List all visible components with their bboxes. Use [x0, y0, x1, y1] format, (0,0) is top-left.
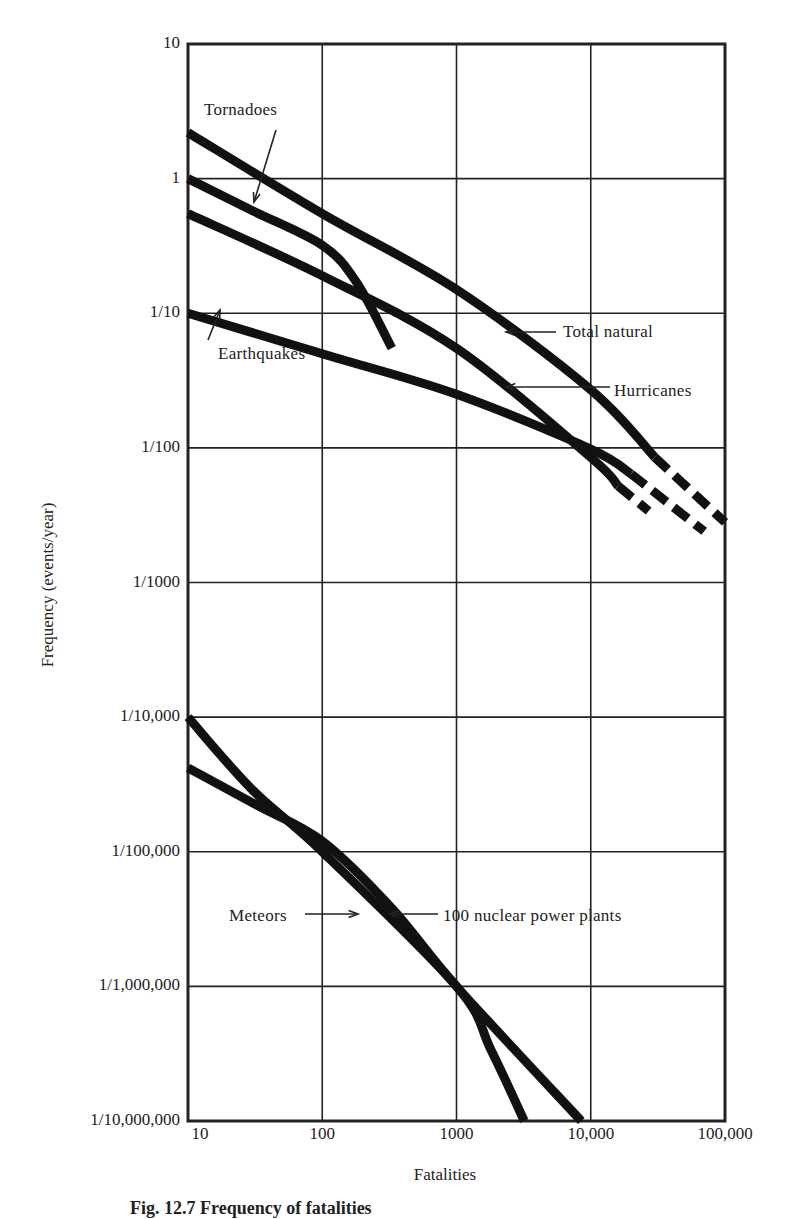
x-tick-label: 10	[150, 1124, 250, 1144]
y-tick-label: 1	[0, 168, 180, 188]
y-tick-label: 1/1000	[0, 572, 180, 592]
curve-total-natural-extrapolated	[655, 457, 725, 522]
tornadoes-arrow	[254, 130, 276, 202]
y-axis-label: Frequency (events/year)	[38, 503, 58, 668]
label-nuclear-power-plants: 100 nuclear power plants	[443, 906, 622, 926]
x-tick-label: 10,000	[541, 1124, 641, 1144]
label-meteors: Meteors	[229, 906, 287, 926]
y-tick-label: 1/10	[0, 302, 180, 322]
figure-caption: Fig. 12.7 Frequency of fatalities	[130, 1198, 372, 1219]
curve-total-natural	[188, 133, 655, 458]
y-tick-label: 1/100,000	[0, 841, 180, 861]
x-tick-label: 100	[272, 1124, 372, 1144]
y-tick-label: 10	[0, 33, 180, 53]
y-tick-label: 1/100	[0, 437, 180, 457]
x-tick-label: 1000	[407, 1124, 507, 1144]
curve-hurricanes-extrapolated	[618, 486, 649, 511]
label-hurricanes: Hurricanes	[614, 381, 692, 401]
grid	[188, 44, 725, 1121]
curve-meteors	[188, 768, 581, 1121]
x-tick-label: 100,000	[675, 1124, 775, 1144]
label-total-natural: Total natural	[563, 322, 653, 342]
x-axis-label: Fatalities	[414, 1165, 476, 1185]
y-tick-label: 1/10,000	[0, 706, 180, 726]
label-earthquakes: Earthquakes	[218, 344, 305, 364]
y-tick-label: 1/1,000,000	[0, 975, 180, 995]
label-tornadoes: Tornadoes	[204, 100, 277, 120]
